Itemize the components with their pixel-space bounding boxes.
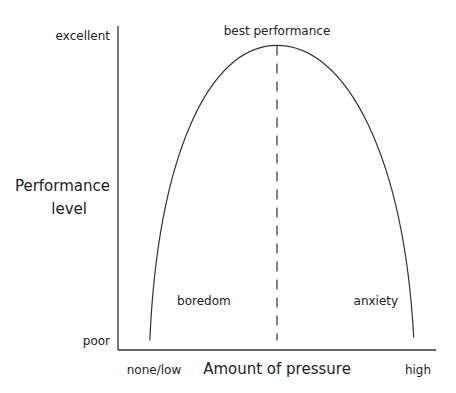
annotation-anxiety: anxiety (354, 294, 399, 308)
inverted-u-chart: excellent poor Performance level none/lo… (0, 0, 456, 393)
annotation-boredom: boredom (177, 294, 231, 308)
y-axis-title-line1: Performance (15, 177, 110, 195)
y-axis-title-line2: level (51, 200, 87, 218)
y-tick-label-excellent: excellent (56, 29, 111, 43)
x-tick-label-none-low: none/low (127, 363, 182, 377)
annotation-best-performance: best performance (224, 24, 331, 38)
x-axis-title: Amount of pressure (203, 360, 351, 378)
x-tick-label-high: high (405, 363, 431, 377)
y-tick-label-poor: poor (83, 334, 110, 348)
